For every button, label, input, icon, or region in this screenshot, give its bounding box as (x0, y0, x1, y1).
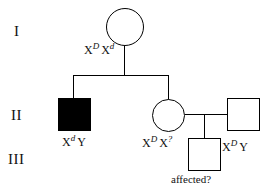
generation-label-i: I (14, 24, 20, 39)
mating-line-generation-ii (185, 114, 227, 115)
genotype-label-ii-male-affected: XdY (62, 136, 86, 148)
genotype-label-i-female: XDXd (84, 44, 114, 56)
generation-label-ii: II (11, 108, 22, 123)
allele-one-base: X (62, 135, 71, 149)
individual-symbol-ii-male-spouse (227, 98, 260, 131)
allele-one-superscript: D (93, 41, 100, 51)
allele-two-superscript: ? (168, 134, 173, 144)
allele-one-base: X (222, 140, 231, 154)
allele-two-base: X (159, 136, 168, 150)
sibship-line-generation-ii (73, 75, 169, 76)
sibling-drop-line-right (168, 75, 169, 100)
individual-symbol-ii-male-affected (58, 98, 91, 131)
allele-two-base: X (101, 43, 110, 57)
individual-symbol-ii-female (152, 99, 185, 132)
allele-two-base: Y (77, 135, 86, 149)
descent-line-generation-iii (204, 114, 205, 139)
individual-symbol-iii-male (188, 138, 221, 171)
generation-label-iii: III (8, 152, 25, 167)
sibling-drop-line-left (73, 75, 74, 99)
allele-one-superscript: d (71, 133, 76, 143)
genotype-label-ii-male-spouse: XDY (222, 141, 248, 153)
pedigree-diagram: I II III XDXd XdY XDX? XDY affected? (0, 0, 275, 190)
allele-one-superscript: D (231, 138, 238, 148)
allele-one-superscript: D (151, 134, 158, 144)
allele-two-superscript: d (110, 41, 115, 51)
allele-two-base: Y (239, 140, 248, 154)
allele-one-base: X (84, 43, 93, 57)
genotype-label-ii-female: XDX? (142, 137, 172, 149)
allele-one-base: X (142, 136, 151, 150)
descent-line-generation-i (124, 46, 125, 76)
status-label-iii-male: affected? (171, 174, 211, 185)
